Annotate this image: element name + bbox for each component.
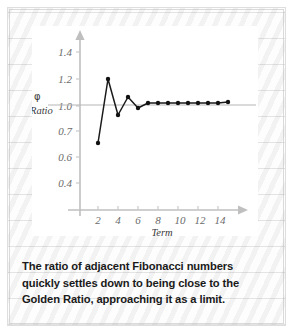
y-tick-label-0-4: 0.4: [58, 177, 72, 189]
data-point: [156, 101, 160, 105]
x-axis-title: Term: [151, 227, 173, 236]
data-point: [96, 141, 100, 145]
x-tick-label-10: 10: [175, 214, 187, 226]
figure-caption: The ratio of adjacent Fibonacci numbers …: [22, 258, 272, 308]
data-point: [116, 113, 120, 117]
y-axis-arrow-icon: [75, 30, 84, 40]
x-tick-label-6: 6: [135, 214, 141, 226]
data-point: [106, 77, 110, 81]
y-tick-label-0-7: 0.7: [58, 125, 72, 137]
data-point: [146, 101, 150, 105]
caption-line-1: The ratio of adjacent Fibonacci numbers: [22, 258, 272, 275]
data-line-fibonacci-ratio: [98, 79, 228, 143]
y-axis-title: Ratio: [32, 105, 53, 116]
x-tick-label-14: 14: [215, 214, 227, 226]
y-tick-label-1-0: 1.0: [58, 100, 72, 112]
data-point: [196, 101, 200, 105]
data-point: [166, 101, 170, 105]
y-tick-label-1-2: 1.2: [58, 73, 72, 85]
fibonacci-ratio-line-chart: 1.4 1.2 1.0 0.7 0.6 0.4 2 4 6 8 10 12: [32, 26, 258, 236]
caption-line-3: Golden Ratio, approaching it as a limit.: [22, 291, 272, 308]
x-tick-label-8: 8: [155, 214, 161, 226]
phi-symbol-icon: φ: [34, 91, 41, 102]
data-point: [206, 101, 210, 105]
x-axis-arrow-icon: [238, 205, 248, 214]
x-tick-label-2: 2: [95, 214, 101, 226]
data-point: [186, 101, 190, 105]
data-point: [216, 101, 220, 105]
data-point-markers: [96, 77, 230, 145]
data-point: [126, 95, 130, 99]
chart-panel: 1.4 1.2 1.0 0.7 0.6 0.4 2 4 6 8 10 12: [32, 26, 258, 236]
x-tick-label-4: 4: [115, 214, 121, 226]
data-point: [176, 101, 180, 105]
data-point: [136, 106, 140, 110]
x-tick-label-12: 12: [195, 214, 207, 226]
y-tick-label-1-4: 1.4: [58, 46, 72, 58]
figure-card-root: 1.4 1.2 1.0 0.7 0.6 0.4 2 4 6 8 10 12: [0, 0, 293, 333]
caption-line-2: quickly settles down to being close to t…: [22, 275, 272, 292]
data-point: [226, 100, 230, 104]
y-tick-label-0-6: 0.6: [58, 151, 72, 163]
